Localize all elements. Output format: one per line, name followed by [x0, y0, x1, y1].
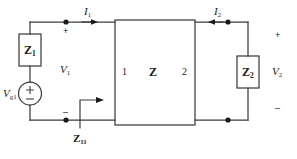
i1-label-subscript: 1: [88, 11, 91, 18]
v1-label-subscript: 1: [67, 69, 70, 76]
z1-label-letter: Z: [24, 43, 32, 57]
v2-minus-sign: –: [275, 104, 280, 113]
z2-label: Z2: [242, 66, 254, 80]
terminal-dot-output-bottom: [225, 117, 230, 122]
v1-label-letter: V: [60, 63, 67, 75]
z1-label: Z1: [24, 44, 36, 58]
circuit-diagram: Z1 Vg1 I1 I2 + V1 – 1 Z 2 Z11 Z2 + V2 –: [0, 0, 297, 159]
z11-label: Z11: [73, 133, 87, 146]
source-label-subscript: g1: [10, 93, 17, 100]
z2-label-letter: Z: [242, 65, 250, 79]
v1-minus-sign: –: [63, 108, 68, 117]
network-z-label: Z: [149, 66, 157, 78]
source-label-letter: V: [3, 87, 10, 99]
terminal-dot-input-top: [63, 19, 68, 24]
z11-arrow-head: [96, 97, 104, 103]
v2-label-subscript: 2: [279, 71, 282, 78]
port2-label: 2: [182, 67, 187, 77]
v2-plus-sign: +: [275, 31, 280, 40]
v2-label: V2: [272, 66, 282, 79]
i2-label: I2: [214, 6, 221, 19]
i1-arrow-head: [91, 19, 98, 24]
v1-label: V1: [60, 64, 70, 77]
v2-label-letter: V: [272, 65, 279, 77]
terminal-dot-output-top: [225, 19, 230, 24]
z2-label-subscript: 2: [250, 71, 254, 80]
z11-pointer-line: [80, 100, 98, 128]
source-plus-icon: [27, 87, 34, 94]
i2-label-subscript: 2: [218, 11, 221, 18]
source-label: Vg1: [3, 88, 17, 101]
i2-arrow-head: [208, 19, 215, 24]
terminal-dot-input-bottom: [63, 117, 68, 122]
i1-label: I1: [84, 6, 91, 19]
port1-label: 1: [122, 67, 127, 77]
z11-label-subscript: 11: [80, 138, 86, 145]
v1-plus-sign: +: [63, 27, 68, 36]
z1-label-subscript: 1: [32, 49, 36, 58]
